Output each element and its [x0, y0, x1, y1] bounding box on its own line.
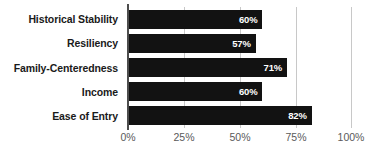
bar-row: 60% [128, 7, 352, 31]
bar: 82% [128, 106, 312, 125]
bar-value-label: 57% [232, 38, 250, 49]
tick-label: 25% [173, 131, 194, 143]
bar-row: 60% [128, 80, 352, 104]
bar-value-label: 60% [239, 86, 257, 97]
value-axis-line [127, 4, 129, 130]
bar-chart: Historical Stability Resiliency Family-C… [0, 0, 380, 153]
category-label: Resiliency [0, 31, 124, 55]
bar: 71% [128, 58, 287, 77]
bar: 57% [128, 34, 256, 53]
category-label: Ease of Entry [0, 104, 124, 128]
bar-value-label: 82% [288, 110, 306, 121]
category-label: Income [0, 80, 124, 104]
tick-label: 75% [285, 131, 306, 143]
bar: 60% [128, 82, 262, 101]
bar-row: 57% [128, 31, 352, 55]
category-label: Historical Stability [0, 7, 124, 31]
value-axis-tick-labels: 0% 25% 50% 75% 100% [128, 131, 352, 147]
bar-row: 71% [128, 55, 352, 79]
tick-label: 100% [338, 131, 365, 143]
bar-value-label: 60% [239, 14, 257, 25]
bar-series: 60% 57% 71% 60% 82% [128, 7, 352, 128]
bar: 60% [128, 10, 262, 29]
category-label: Family-Centeredness [0, 55, 124, 79]
bar-row: 82% [128, 104, 352, 128]
bar-value-label: 71% [264, 62, 282, 73]
category-axis: Historical Stability Resiliency Family-C… [0, 7, 124, 128]
tick-label: 0% [120, 131, 135, 143]
tick-label: 50% [229, 131, 250, 143]
plot-area: 60% 57% 71% 60% 82% [128, 7, 352, 128]
